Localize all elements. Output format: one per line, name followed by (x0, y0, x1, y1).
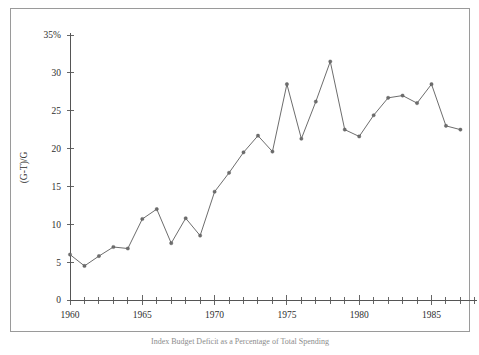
figure-border (10, 8, 470, 332)
figure-caption: Index Budget Deficit as a Percentage of … (10, 336, 470, 348)
figure-container: 05101520253035% 196019651970197519801985… (0, 0, 479, 355)
